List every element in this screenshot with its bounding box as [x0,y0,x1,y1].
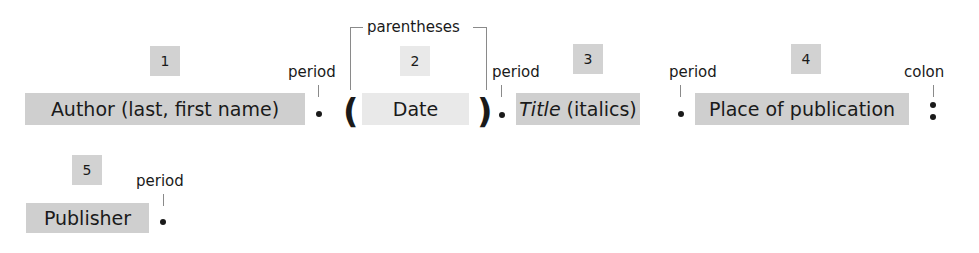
publisher-box: Publisher [26,203,149,233]
colon-dot-bottom [930,114,936,120]
number-badge-1: 1 [150,46,180,76]
pointer-tick-3 [680,85,681,97]
period-dot-3 [678,111,684,117]
period-dot-5 [160,219,166,225]
number-badge-5: 5 [72,155,102,185]
title-rest-text: (italics) [561,98,637,120]
close-parenthesis: ) [477,94,493,128]
period-dot-2 [499,112,505,118]
period-dot-1 [316,111,322,117]
colon-dot-top [930,102,936,108]
title-box: Title (italics) [516,93,640,125]
pointer-tick-5 [163,194,164,206]
pointer-tick-4 [933,85,934,97]
period-label-2: period [492,63,540,81]
place-of-publication-box: Place of publication [695,93,909,125]
number-badge-4: 4 [791,44,821,74]
parentheses-label: parentheses [367,18,460,36]
number-badge-2: 2 [400,46,430,76]
period-label-5: period [136,172,184,190]
pointer-tick-2 [501,85,502,97]
period-label-3: period [669,63,717,81]
colon-label: colon [904,63,944,81]
date-box: Date [362,93,469,125]
author-box: Author (last, first name) [25,93,305,125]
title-italic-text: Title [519,98,560,120]
period-label-1: period [288,63,336,81]
number-badge-3: 3 [573,44,603,74]
pointer-tick-1 [318,85,319,97]
open-parenthesis: ( [343,94,359,128]
